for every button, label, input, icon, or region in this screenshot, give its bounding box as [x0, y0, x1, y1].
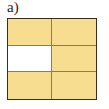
grid-diagram [7, 18, 97, 100]
cell-r2c1 [8, 46, 52, 73]
cell-r3c1 [8, 72, 52, 99]
cell-r1c1 [8, 19, 52, 46]
cell-r3c2 [52, 72, 96, 99]
figure-panel-a: a) [0, 0, 109, 109]
panel-label: a) [7, 0, 19, 16]
cell-r2c2 [52, 46, 96, 73]
cell-r1c2 [52, 19, 96, 46]
